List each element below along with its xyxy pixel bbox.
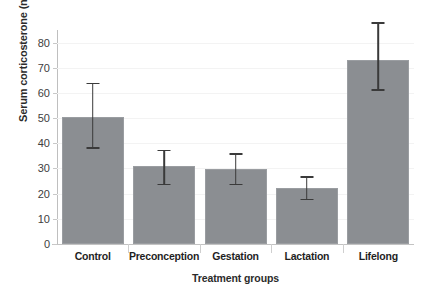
error-cap-lower: [86, 147, 99, 149]
error-bar: [378, 22, 380, 89]
category-divider: [343, 244, 344, 253]
y-tick-mark: [53, 68, 57, 69]
bar-group: Lactation: [276, 30, 338, 244]
error-cap-upper: [229, 153, 242, 155]
y-tick-mark: [53, 143, 57, 144]
y-tick-label: 30: [38, 162, 50, 174]
y-tick-mark: [53, 93, 57, 94]
error-bar: [92, 83, 94, 147]
bar-group: Control: [62, 30, 124, 244]
y-tick-mark: [53, 43, 57, 44]
y-axis-line: [57, 30, 58, 244]
error-cap-lower: [300, 199, 313, 201]
x-tick-label: Control: [75, 250, 111, 262]
error-bar: [163, 150, 165, 184]
y-axis-title: Serum corticosterone (ng/ml): [17, 0, 33, 153]
y-tick-label: 70: [38, 62, 50, 74]
chart-figure: Serum corticosterone (ng/ml) 01020304050…: [0, 0, 428, 299]
error-cap-lower: [158, 184, 171, 186]
error-cap-upper: [86, 83, 99, 85]
error-cap-upper: [158, 150, 171, 152]
x-axis-line: [52, 244, 414, 245]
error-bar: [235, 153, 237, 183]
plot-area: 01020304050607080ControlPreconceptionGes…: [57, 30, 414, 244]
y-tick-label: 0: [44, 238, 50, 250]
error-cap-upper: [300, 176, 313, 178]
x-tick-label: Preconception: [129, 250, 199, 262]
y-tick-mark: [53, 194, 57, 195]
error-cap-lower: [372, 89, 385, 91]
y-tick-label: 40: [38, 137, 50, 149]
y-tick-label: 10: [38, 213, 50, 225]
error-bar: [306, 176, 308, 199]
y-tick-label: 80: [38, 37, 50, 49]
x-axis-title: Treatment groups: [57, 272, 414, 284]
x-tick-label: Lactation: [284, 250, 329, 262]
category-divider: [271, 244, 272, 253]
error-cap-upper: [372, 22, 385, 24]
x-tick-label: Lifelong: [359, 250, 398, 262]
x-tick-label: Gestation: [212, 250, 259, 262]
bar-group: Preconception: [133, 30, 195, 244]
y-tick-label: 20: [38, 188, 50, 200]
y-tick-mark: [53, 219, 57, 220]
bar-group: Gestation: [205, 30, 267, 244]
y-tick-mark: [53, 168, 57, 169]
category-divider: [128, 244, 129, 253]
category-divider: [200, 244, 201, 253]
y-tick-mark: [53, 244, 57, 245]
bar-group: Lifelong: [347, 30, 409, 244]
y-tick-label: 50: [38, 112, 50, 124]
y-tick-label: 60: [38, 87, 50, 99]
error-cap-lower: [229, 184, 242, 186]
y-tick-mark: [53, 118, 57, 119]
